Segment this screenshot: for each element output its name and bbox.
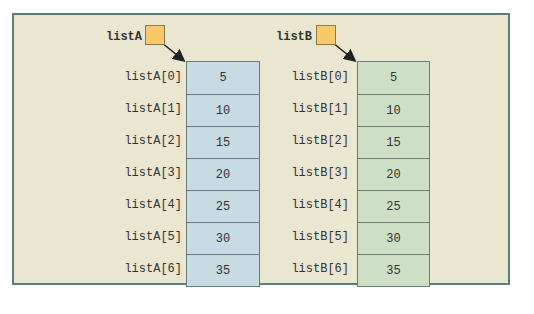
listB-index-label: listB[2] bbox=[259, 125, 349, 157]
listA-cell: 5 bbox=[187, 62, 259, 94]
listB-cell: 5 bbox=[358, 62, 429, 94]
listB-array: 5 10 15 20 25 30 35 bbox=[357, 61, 430, 287]
listA-variable-label: listA bbox=[106, 30, 142, 44]
listA-index-label: listA[2] bbox=[92, 125, 182, 157]
listA-reference-box bbox=[145, 25, 165, 45]
listA-index-label: listA[3] bbox=[92, 157, 182, 189]
listB-cell: 20 bbox=[358, 158, 429, 190]
listA-index-label: listA[6] bbox=[92, 253, 182, 285]
listB-cell: 10 bbox=[358, 94, 429, 126]
listA-index-label: listA[5] bbox=[92, 221, 182, 253]
listB-index-label: listB[6] bbox=[259, 253, 349, 285]
listA-cell: 30 bbox=[187, 222, 259, 254]
listB-index-label: listB[3] bbox=[259, 157, 349, 189]
listB-cell: 15 bbox=[358, 126, 429, 158]
listB-index-label: listB[0] bbox=[259, 61, 349, 93]
listB-index-label: listB[5] bbox=[259, 221, 349, 253]
listA-index-label: listA[4] bbox=[92, 189, 182, 221]
listB-index-label: listB[1] bbox=[259, 93, 349, 125]
listA-cell: 20 bbox=[187, 158, 259, 190]
listA-cell: 35 bbox=[187, 254, 259, 286]
listB-cell: 25 bbox=[358, 190, 429, 222]
listA-index-label: listA[0] bbox=[92, 61, 182, 93]
listA-cell: 15 bbox=[187, 126, 259, 158]
listB-cell: 35 bbox=[358, 254, 429, 286]
listB-reference-box bbox=[316, 25, 336, 45]
listA-cell: 25 bbox=[187, 190, 259, 222]
listB-variable-label: listB bbox=[276, 30, 312, 44]
listB-cell: 30 bbox=[358, 222, 429, 254]
listA-index-label: listA[1] bbox=[92, 93, 182, 125]
listA-cell: 10 bbox=[187, 94, 259, 126]
listA-array: 5 10 15 20 25 30 35 bbox=[186, 61, 260, 287]
listB-index-label: listB[4] bbox=[259, 189, 349, 221]
